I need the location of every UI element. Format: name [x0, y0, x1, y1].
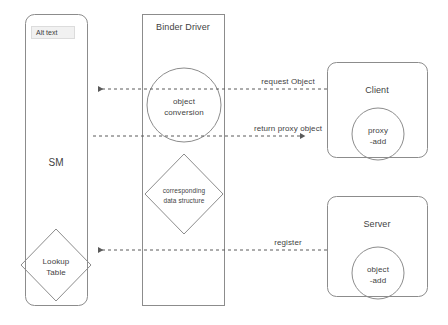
- proxy-add-line2: -add: [352, 136, 404, 147]
- corresponding-data-structure-line1: corresponding: [150, 186, 218, 196]
- object-add-line2: -add: [352, 275, 404, 286]
- binder-driver-box: [143, 15, 225, 306]
- object-conversion-label: object conversion: [154, 96, 214, 118]
- proxy-add-line1: proxy: [352, 125, 404, 136]
- diagram-canvas: Alt text SM Binder Driver Client Server …: [0, 0, 448, 325]
- object-conversion-line1: object: [154, 96, 214, 107]
- object-conversion-line2: conversion: [154, 107, 214, 118]
- alt-text-badge[interactable]: Alt text: [31, 26, 75, 39]
- lookup-table-line1: Lookup: [28, 256, 84, 267]
- server-label: Server: [328, 219, 426, 230]
- edge-label-register: register: [240, 237, 336, 248]
- lookup-table-label: Lookup Table: [28, 256, 84, 278]
- edge-label-return-proxy-object: return proxy object: [228, 123, 348, 134]
- proxy-add-label: proxy -add: [352, 125, 404, 147]
- binder-driver-label: Binder Driver: [143, 22, 223, 33]
- corresponding-data-structure-line2: data structure: [150, 196, 218, 206]
- client-label: Client: [328, 85, 426, 96]
- object-add-line1: object: [352, 264, 404, 275]
- object-add-label: object -add: [352, 264, 404, 286]
- sm-label: SM: [26, 157, 86, 168]
- alt-text-badge-label: Alt text: [36, 29, 57, 36]
- edge-label-request-object: request Object: [238, 76, 338, 87]
- lookup-table-line2: Table: [28, 267, 84, 278]
- corresponding-data-structure-label: corresponding data structure: [150, 186, 218, 206]
